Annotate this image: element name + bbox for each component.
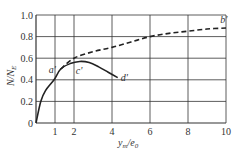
point-label: b' [220,14,228,25]
y-tick-label: 0.6 [21,53,34,64]
y-tick-label: 1.0 [21,10,34,21]
point-label: d' [121,72,129,83]
x-tick-label: 4 [110,126,115,137]
annotations: a'c'd'b' [49,14,229,83]
x-tick-label: 8 [186,126,191,137]
x-axis-label: ym/e0 [117,137,139,150]
y-tick-label: 0.2 [21,96,34,107]
curves [36,28,226,123]
x-tick-label: 1 [53,126,58,137]
x-tick-label: 6 [148,126,153,137]
x-tick-label: 10 [221,126,231,137]
chart: 124681000.20.40.60.81.0 a'c'd'b' N/NE ym… [0,0,239,150]
y-tick-label: 0 [28,118,33,129]
y-axis-label: N/NE [5,65,18,87]
y-tick-label: 0.4 [21,74,34,85]
point-label: a' [49,64,57,75]
x-tick-label: 2 [72,126,77,137]
y-tick-label: 0.8 [21,31,34,42]
grid [36,15,226,123]
dashed-curve [61,28,226,69]
point-label: c' [76,65,83,76]
